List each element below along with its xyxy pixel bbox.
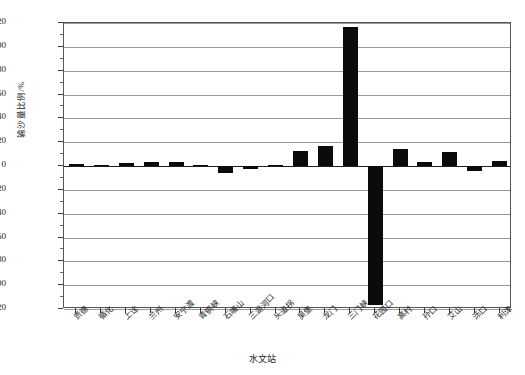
chart-figure: 输沙量比例/% 120100806040200-20-40-60-80-100-… bbox=[0, 0, 525, 375]
bar bbox=[94, 165, 109, 166]
bar bbox=[69, 164, 84, 166]
bar bbox=[268, 165, 283, 166]
bar bbox=[368, 166, 383, 305]
y-tick-label: 100 bbox=[0, 41, 6, 50]
bar bbox=[417, 162, 432, 166]
bar-series bbox=[64, 23, 510, 307]
y-tick-label: 120 bbox=[0, 17, 6, 26]
y-tick-label: 20 bbox=[0, 136, 6, 145]
x-axis-title: 水文站 bbox=[0, 352, 525, 365]
bar bbox=[218, 166, 233, 173]
bar bbox=[393, 149, 408, 166]
y-tick-label: 40 bbox=[0, 112, 6, 121]
bar bbox=[193, 165, 208, 166]
bar bbox=[243, 166, 258, 169]
bar bbox=[169, 162, 184, 166]
y-tick-label: 80 bbox=[0, 65, 6, 74]
y-tick-label: -80 bbox=[0, 255, 6, 264]
y-tick-label: -120 bbox=[0, 303, 6, 312]
bar bbox=[293, 151, 308, 166]
bar bbox=[318, 146, 333, 166]
bar bbox=[442, 152, 457, 166]
bar bbox=[467, 166, 482, 171]
bar bbox=[144, 162, 159, 166]
y-tick-label: 60 bbox=[0, 89, 6, 98]
y-tick-label: -20 bbox=[0, 184, 6, 193]
y-tick-label: 0 bbox=[0, 160, 6, 169]
bar bbox=[492, 161, 507, 166]
bar bbox=[119, 163, 134, 166]
plot-area bbox=[63, 22, 511, 308]
y-tick-label: -60 bbox=[0, 232, 6, 241]
y-tick-mark bbox=[58, 308, 63, 309]
y-tick-label: -40 bbox=[0, 208, 6, 217]
bar bbox=[343, 27, 358, 166]
y-tick-label: -100 bbox=[0, 279, 6, 288]
y-axis-title: 输沙量比例/% bbox=[14, 48, 26, 138]
